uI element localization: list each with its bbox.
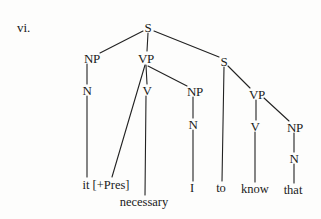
edge-v1-necessary	[145, 96, 146, 195]
node-n-object: N	[188, 118, 197, 131]
node-v-main: V	[142, 84, 151, 97]
leaf-it-pres: it [+Pres]	[83, 179, 130, 192]
leaf-I: I	[190, 182, 194, 195]
edge-s-s2	[154, 31, 219, 57]
example-number-label: vi.	[17, 21, 30, 34]
leaf-to: to	[216, 182, 226, 195]
node-s-root: S	[145, 21, 152, 34]
node-n-embedded: N	[289, 152, 298, 165]
edge-vp1-np2	[148, 66, 187, 86]
node-np-embedded: NP	[287, 121, 303, 134]
node-v-embedded: V	[250, 120, 259, 133]
edge-vp1-v1	[146, 65, 147, 84]
leaf-know: know	[241, 183, 269, 196]
node-n-subject: N	[82, 84, 91, 97]
edge-s-vp	[147, 33, 148, 51]
syntax-tree-diagram: vi. S NP N VP V NP N S VP V NP N it [+Pr…	[0, 0, 321, 219]
node-np-subject: NP	[84, 52, 100, 65]
node-np-object: NP	[187, 85, 203, 98]
edge-s2-vp2	[228, 66, 250, 88]
edge-s2-to	[222, 67, 224, 181]
node-vp-main: VP	[138, 52, 154, 65]
node-vp-embedded: VP	[249, 88, 265, 101]
edge-s-np	[100, 31, 143, 53]
tree-edges	[0, 0, 321, 219]
leaf-necessary: necessary	[120, 196, 169, 209]
leaf-that: that	[284, 184, 303, 197]
edge-vp1-pres	[112, 65, 145, 177]
node-s-embedded: S	[221, 55, 228, 68]
edge-vp2-np3	[264, 98, 289, 121]
